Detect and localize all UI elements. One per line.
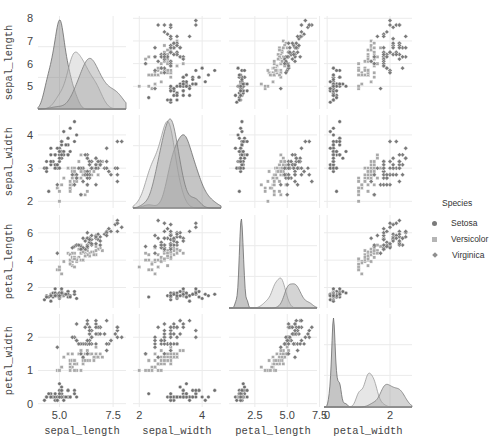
legend: Species Setosa Versicolor Virginica (432, 198, 488, 263)
legend-label: Virginica (452, 250, 484, 260)
svg-text:4: 4 (27, 254, 33, 266)
panel-sepal_width-vs-sepal_length (38, 115, 126, 208)
legend-item-virginica: Virginica (432, 247, 488, 263)
diamond-marker-icon (432, 252, 438, 258)
xlabel-sepal_length: sepal_length (44, 425, 120, 437)
panel-sepal_length-vs-petal_length (229, 16, 320, 109)
svg-text:5.0: 5.0 (52, 409, 67, 421)
panel-petal_length-vs-petal_length (229, 215, 320, 308)
panel-petal_width-vs-petal_length (229, 314, 320, 407)
legend-title: Species (442, 198, 488, 208)
svg-text:0: 0 (324, 409, 330, 421)
svg-text:4: 4 (199, 409, 205, 421)
legend-item-setosa: Setosa (432, 215, 488, 231)
ylabel-petal_length: petal_length (3, 224, 15, 300)
legend-item-versicolor: Versicolor (432, 231, 488, 247)
xlabel-sepal_width: sepal_width (142, 425, 211, 437)
svg-text:4: 4 (27, 129, 33, 141)
panel-petal_width-vs-sepal_width (133, 314, 221, 407)
svg-text:2: 2 (387, 409, 393, 421)
panel-petal_width-vs-petal_width (324, 314, 412, 407)
svg-text:2: 2 (27, 331, 33, 343)
svg-text:2: 2 (27, 281, 33, 293)
svg-text:7.5: 7.5 (105, 409, 120, 421)
svg-text:3: 3 (27, 162, 33, 174)
svg-text:6: 6 (27, 58, 33, 70)
panel-sepal_length-vs-sepal_length (38, 16, 126, 109)
panel-sepal_width-vs-sepal_width (133, 115, 221, 208)
legend-label: Setosa (451, 218, 477, 228)
panel-petal_length-vs-sepal_width (133, 215, 221, 308)
panel-sepal_width-vs-petal_width (324, 115, 412, 208)
svg-text:2: 2 (136, 409, 142, 421)
svg-text:6: 6 (27, 227, 33, 239)
panel-sepal_length-vs-petal_width (324, 16, 412, 109)
svg-text:8: 8 (27, 12, 33, 24)
pairplot-chart: 5678sepal_length234sepal_width246petal_l… (0, 0, 503, 448)
svg-text:2.5: 2.5 (247, 409, 262, 421)
svg-text:5: 5 (27, 80, 33, 92)
legend-label: Versicolor (451, 234, 488, 244)
svg-text:2: 2 (27, 195, 33, 207)
ylabel-petal_width: petal_width (3, 326, 15, 395)
panel-petal_width-vs-sepal_length (38, 314, 126, 407)
panel-sepal_length-vs-sepal_width (133, 16, 221, 109)
xlabel-petal_length: petal_length (235, 425, 311, 437)
ylabel-sepal_width: sepal_width (3, 127, 15, 196)
svg-text:5.0: 5.0 (280, 409, 295, 421)
circle-marker-icon (432, 221, 437, 226)
svg-text:0: 0 (27, 398, 33, 410)
square-marker-icon (432, 237, 437, 242)
xlabel-petal_width: petal_width (333, 425, 402, 437)
panel-petal_length-vs-petal_width (324, 215, 412, 308)
panel-sepal_width-vs-petal_length (229, 115, 320, 208)
svg-text:1: 1 (27, 364, 33, 376)
panel-petal_length-vs-sepal_length (38, 215, 126, 308)
svg-text:7: 7 (27, 35, 33, 47)
ylabel-sepal_length: sepal_length (3, 25, 15, 101)
